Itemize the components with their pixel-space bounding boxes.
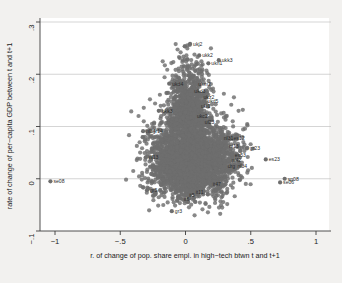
data-point [231,124,235,128]
data-point [225,174,229,178]
data-point [150,134,154,138]
data-point-label: se08 [53,178,64,184]
data-point-label: ukj2 [193,41,203,47]
data-point-label: ukk3 [162,108,173,114]
data-point [226,170,230,174]
data-point [212,175,216,179]
data-point [184,176,188,180]
data-point [173,203,177,207]
data-point-labeled [170,209,174,213]
data-point [193,129,197,133]
data-point [174,190,178,194]
data-point-label: se06 [283,179,294,185]
data-point [219,195,223,199]
data-point [221,150,225,154]
data-point [221,183,225,187]
data-point [154,165,158,169]
data-point [152,120,156,124]
data-point [241,127,245,131]
scatter-plot-figure: ukj2ukk2ukk3ukn1ukd4ukm2ukd3ukz2ukd5ukl1… [0,0,342,283]
data-point [153,101,157,105]
data-point [221,200,225,204]
data-point [176,162,180,166]
x-tick-label: .5 [248,237,254,246]
data-point [218,212,222,216]
data-point [172,179,176,183]
data-point [204,69,208,73]
data-point [218,126,222,130]
data-point [140,171,144,175]
data-point [245,122,249,126]
data-point [141,185,145,189]
data-point-label: es12 [234,135,245,141]
data-point-label: nl13 [149,154,159,160]
x-tick-label: 0 [183,237,187,246]
data-point [158,188,162,192]
data-point [177,55,181,59]
data-point [143,162,147,166]
data-point [173,94,177,98]
data-point [195,134,199,138]
data-point-labeled [245,146,249,150]
data-point-label: gr5 [150,187,158,193]
data-point [175,140,179,144]
data-point-label: ukk3 [222,57,233,63]
data-point-label: it47 [213,181,221,187]
data-point [179,148,183,152]
data-point [222,92,226,96]
data-point-labeled [48,179,52,183]
data-point [222,192,226,196]
data-point-labeled [264,157,268,161]
data-point [167,174,171,178]
data-point [187,121,191,125]
x-axis-title: r. of change of pop. share empl. in high… [90,251,279,260]
data-point [231,119,235,123]
data-point [135,156,139,160]
data-point [214,153,218,157]
data-point [124,178,128,182]
data-point [195,100,199,104]
data-point [229,103,233,107]
data-point-labeled [197,53,201,57]
data-point-labeled [206,61,210,65]
data-point [200,178,204,182]
data-point [186,172,190,176]
data-point [173,106,177,110]
data-point-labeled [226,158,230,162]
data-point [152,194,156,198]
data-point [217,158,221,162]
x-tick-label: 1 [314,237,318,246]
data-point [150,179,154,183]
y-tick-label: .1 [27,129,36,135]
data-point [158,116,162,120]
data-point [173,127,177,131]
data-point [162,195,166,199]
data-point [188,166,192,170]
data-point [216,171,220,175]
data-point [170,140,174,144]
data-point-labeled [224,144,228,148]
data-point [190,62,194,66]
data-point [198,200,202,204]
data-point-labeled [192,114,196,118]
data-point [193,200,197,204]
data-point [158,155,162,159]
data-point [131,169,135,173]
data-point-label: ukc2 [197,113,208,119]
data-point [150,146,154,150]
data-point [250,166,254,170]
data-point [136,114,140,118]
data-point [206,172,210,176]
data-point [170,197,174,201]
data-point-labeled [157,109,161,113]
data-point-label: gr23 [250,145,260,151]
data-point [154,135,158,139]
data-point [214,109,218,113]
data-point [145,170,149,174]
data-point [191,179,195,183]
data-point [206,192,210,196]
data-point [194,119,198,123]
data-point [216,120,220,124]
data-point [138,151,142,155]
data-point [200,67,204,71]
